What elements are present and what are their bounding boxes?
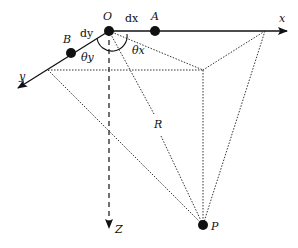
theta-x-label: θx [132, 44, 146, 57]
point-a-label: A [150, 10, 159, 23]
point-p-label: P [210, 220, 219, 233]
x-axis-label: x [279, 12, 286, 25]
point-a [150, 26, 160, 36]
theta-y-label: θy [81, 51, 95, 64]
point-p [198, 220, 208, 230]
coordinate-diagram: O A B P x y Z dx dy θx θy R [0, 0, 298, 248]
point-b [66, 48, 76, 58]
origin-label: O [103, 10, 112, 23]
r-line-lower [161, 136, 203, 225]
point-b-label: B [62, 33, 71, 46]
dy-label: dy [80, 27, 94, 40]
dx-label: dx [125, 12, 139, 25]
origin-to-corner-line [109, 31, 203, 70]
origin-point [104, 26, 114, 36]
x-projection-line [203, 31, 265, 70]
z-axis-label: Z [114, 223, 123, 236]
x-point-to-p-line [203, 31, 265, 225]
r-label: R [153, 118, 162, 131]
y-axis-label: y [18, 70, 26, 83]
y-point-to-p-line [48, 70, 203, 225]
